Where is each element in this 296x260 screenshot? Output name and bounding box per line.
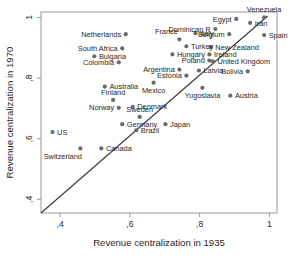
data-point [138,115,142,119]
point-label: Venezuela [247,5,282,14]
revenue-centralization-scatter-svg: ,4,6,81,4,6,81 VenezuelaEgyptIranDominic… [0,0,296,260]
point-label: Spain [269,31,288,40]
data-point [50,130,54,134]
point-label: Mexico [142,86,165,95]
data-point [184,74,188,78]
data-point [163,122,167,126]
scatter-plot-figure: ,4,6,81,4,6,81 VenezuelaEgyptIranDominic… [0,0,296,260]
point-label: Egypt [213,15,232,24]
x-tick-label: ,6 [126,219,133,229]
point-label: Austria [235,91,259,100]
point-label: Poland [182,56,205,65]
point-label: US [57,128,67,137]
point-label: Estonia [157,71,183,80]
point-label: France [155,27,178,36]
data-point [227,32,231,36]
data-point [248,21,252,25]
point-label: Japan [170,120,190,129]
data-point [111,98,115,102]
data-point [184,44,188,48]
point-label: Norway [89,103,114,112]
x-tick-label: ,4 [57,219,64,229]
data-point [170,52,174,56]
data-point [177,37,181,41]
point-label: Brazil [141,126,160,135]
point-label-layer: VenezuelaEgyptIranDominican RBelgiumSpai… [44,5,288,160]
data-point [197,68,201,72]
point-label: Netherlands [81,30,121,39]
point-label: Bolivia [221,67,244,76]
data-point [120,46,124,50]
y-tick-label: ,4 [24,196,34,203]
data-point [99,146,103,150]
point-label: Italy [200,29,214,38]
point-label: Iran [255,19,268,28]
x-tick-label: ,8 [196,219,203,229]
point-label: Canada [106,144,133,153]
x-tick-label: 1 [267,219,272,229]
y-tick-label: ,8 [24,74,34,81]
point-label: Switzerland [44,152,82,161]
point-label: Finland [101,88,125,97]
data-point [246,69,250,73]
y-axis-label: Revenue centralization in 1970 [4,47,15,179]
data-point [117,106,121,110]
data-point [200,86,204,90]
data-point [120,122,124,126]
data-point [234,17,238,21]
data-point [151,81,155,85]
data-point [228,94,232,98]
data-point [262,33,266,37]
x-axis-label: Revenue centralization in 1935 [93,237,225,248]
point-label: United Kingdom [217,57,270,66]
data-point [78,146,82,150]
point-label: Sweden [126,105,153,114]
data-point [211,59,215,63]
point-label: Yugoslavia [185,91,222,100]
data-point [207,52,211,56]
y-tick-label: ,6 [24,135,34,142]
data-point [124,32,128,36]
y-tick-label: 1 [24,15,34,20]
point-label: Colombia [83,58,115,67]
